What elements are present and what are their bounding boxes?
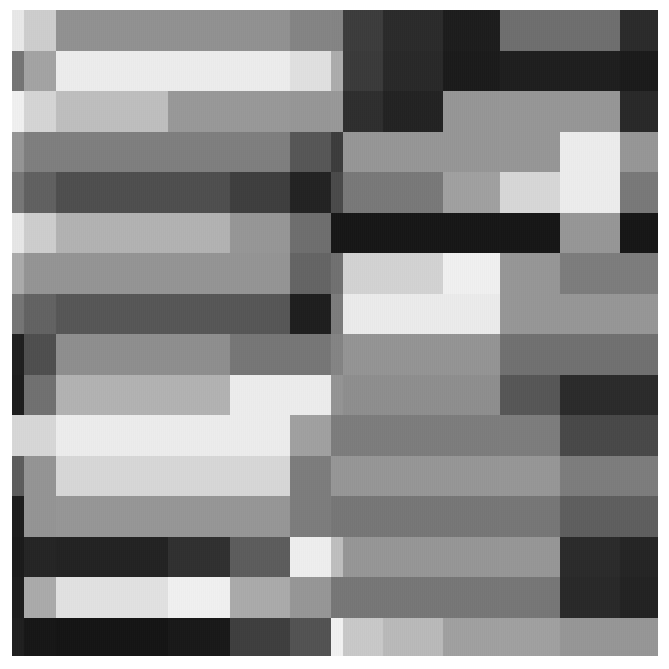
heatmap-cell <box>443 334 500 375</box>
heatmap-cell <box>443 537 500 577</box>
heatmap-cell <box>112 172 168 213</box>
heatmap-cell <box>12 213 24 253</box>
heatmap-cell <box>620 415 658 456</box>
heatmap-cell <box>620 51 658 91</box>
heatmap-cell <box>560 172 620 213</box>
heatmap-cell <box>168 10 230 51</box>
heatmap-cell <box>560 10 620 51</box>
heatmap-cell <box>230 618 290 656</box>
heatmap-cell <box>290 334 331 375</box>
heatmap-cell <box>331 91 343 132</box>
heatmap-cell <box>24 51 56 91</box>
heatmap-cell <box>12 294 24 334</box>
heatmap-cell <box>500 10 560 51</box>
heatmap-cell <box>290 91 331 132</box>
heatmap-cell <box>331 51 343 91</box>
heatmap-cell <box>331 294 343 334</box>
heatmap-cell <box>24 10 56 51</box>
heatmap-cell <box>443 415 500 456</box>
heatmap-cell <box>500 456 560 496</box>
heatmap-cell <box>112 91 168 132</box>
heatmap-cell <box>12 496 24 537</box>
heatmap-cell <box>290 618 331 656</box>
heatmap-cell <box>500 334 560 375</box>
heatmap-cell <box>12 456 24 496</box>
heatmap-cell <box>343 496 383 537</box>
heatmap-cell <box>168 253 230 294</box>
heatmap-cell <box>620 334 658 375</box>
heatmap-cell <box>230 91 290 132</box>
heatmap-cell <box>620 294 658 334</box>
heatmap-cell <box>331 577 343 618</box>
heatmap-cell <box>331 253 343 294</box>
heatmap-cell <box>560 91 620 132</box>
heatmap-cell <box>343 253 383 294</box>
heatmap-cell <box>443 51 500 91</box>
heatmap-cell <box>112 375 168 415</box>
heatmap-cell <box>168 294 230 334</box>
heatmap-cell <box>383 415 443 456</box>
heatmap-cell <box>168 132 230 172</box>
heatmap-cell <box>24 375 56 415</box>
heatmap-cell <box>24 537 56 577</box>
heatmap-cell <box>230 213 290 253</box>
heatmap-cell <box>620 537 658 577</box>
heatmap-cell <box>168 213 230 253</box>
heatmap-cell <box>443 253 500 294</box>
heatmap-cell <box>500 213 560 253</box>
heatmap-cell <box>343 415 383 456</box>
heatmap-cell <box>443 132 500 172</box>
heatmap-cell <box>620 375 658 415</box>
heatmap-cell <box>112 618 168 656</box>
heatmap-cell <box>331 415 343 456</box>
heatmap-cell <box>383 172 443 213</box>
heatmap-cell <box>12 415 24 456</box>
heatmap-cell <box>560 618 620 656</box>
heatmap-cell <box>24 618 56 656</box>
heatmap-cell <box>230 253 290 294</box>
heatmap-cell <box>383 253 443 294</box>
heatmap-cell <box>230 334 290 375</box>
heatmap-cell <box>56 618 112 656</box>
heatmap-cell <box>383 294 443 334</box>
heatmap-cell <box>168 172 230 213</box>
heatmap-cell <box>443 375 500 415</box>
heatmap-cell <box>560 51 620 91</box>
heatmap-cell <box>290 456 331 496</box>
heatmap-cell <box>443 213 500 253</box>
heatmap-cell <box>620 577 658 618</box>
heatmap-cell <box>331 618 343 656</box>
heatmap-cell <box>443 294 500 334</box>
heatmap-cell <box>168 456 230 496</box>
heatmap-cell <box>290 172 331 213</box>
heatmap-cell <box>331 172 343 213</box>
heatmap-cell <box>168 496 230 537</box>
heatmap-cell <box>12 334 24 375</box>
heatmap-cell <box>383 496 443 537</box>
heatmap-cell <box>383 456 443 496</box>
heatmap-cell <box>290 537 331 577</box>
heatmap-cell <box>230 172 290 213</box>
heatmap-cell <box>24 213 56 253</box>
heatmap-cell <box>620 456 658 496</box>
heatmap-cell <box>56 496 112 537</box>
heatmap-cell <box>443 456 500 496</box>
heatmap-cell <box>56 10 112 51</box>
heatmap-cell <box>230 294 290 334</box>
heatmap-cell <box>560 132 620 172</box>
heatmap-cell <box>343 91 383 132</box>
heatmap-cell <box>12 91 24 132</box>
heatmap-cell <box>443 496 500 537</box>
heatmap-cell <box>112 10 168 51</box>
heatmap-cell <box>331 537 343 577</box>
heatmap-cell <box>230 496 290 537</box>
heatmap-cell <box>500 375 560 415</box>
heatmap-cell <box>443 172 500 213</box>
heatmap-cell <box>168 577 230 618</box>
heatmap-cell <box>56 415 112 456</box>
heatmap-cell <box>112 537 168 577</box>
heatmap-cell <box>168 334 230 375</box>
heatmap-cell <box>331 496 343 537</box>
heatmap-cell <box>500 577 560 618</box>
heatmap-cell <box>500 294 560 334</box>
